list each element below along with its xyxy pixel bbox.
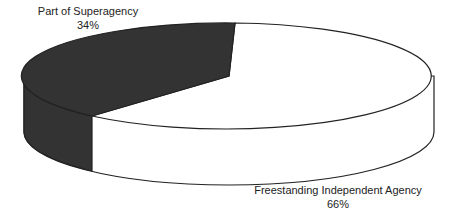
label-superagency-name: Part of Superagency bbox=[18, 4, 158, 18]
label-freestanding-pct: 66% bbox=[222, 197, 454, 211]
label-freestanding-name: Freestanding Independent Agency bbox=[222, 183, 454, 197]
pie-chart bbox=[0, 0, 457, 214]
label-superagency-pct: 34% bbox=[18, 18, 158, 32]
label-freestanding: Freestanding Independent Agency 66% bbox=[222, 183, 454, 211]
label-superagency: Part of Superagency 34% bbox=[18, 4, 158, 32]
